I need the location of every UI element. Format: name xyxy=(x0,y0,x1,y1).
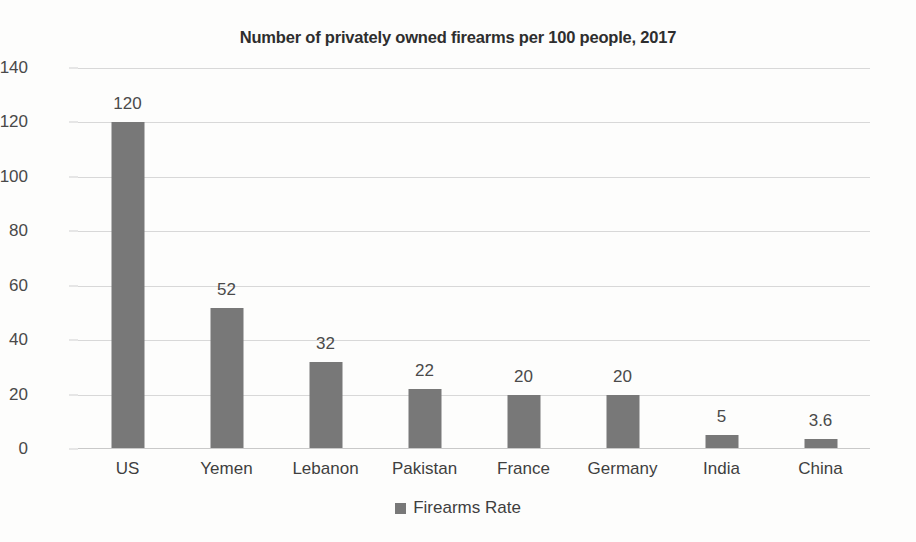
bar-value-label: 3.6 xyxy=(809,411,833,431)
bar[interactable] xyxy=(309,362,342,449)
x-axis-category-label: Lebanon xyxy=(292,459,358,479)
bar[interactable] xyxy=(606,395,639,449)
bar-slot: 22 xyxy=(375,68,474,449)
bar-slot: 52 xyxy=(177,68,276,449)
bar-slot: 120 xyxy=(78,68,177,449)
x-axis-category-label: Pakistan xyxy=(392,459,457,479)
y-axis-tick-label: 60 xyxy=(0,276,28,296)
bar-value-label: 32 xyxy=(316,334,335,354)
bar[interactable] xyxy=(408,389,441,449)
y-axis-tick-label: 80 xyxy=(0,221,28,241)
chart-title: Number of privately owned firearms per 1… xyxy=(0,28,916,47)
bar-value-label: 5 xyxy=(717,407,726,427)
plot-area: 120523222202053.6 xyxy=(78,68,870,449)
bar-slot: 20 xyxy=(474,68,573,449)
y-axis-tick-mark xyxy=(69,176,78,177)
axis-baseline xyxy=(78,448,870,449)
bar-slot: 3.6 xyxy=(771,68,870,449)
legend-swatch-icon xyxy=(395,503,406,514)
bar-value-label: 52 xyxy=(217,280,236,300)
y-axis-tick-mark xyxy=(69,231,78,232)
x-axis-category-label: France xyxy=(497,459,550,479)
bar-value-label: 120 xyxy=(113,94,141,114)
y-axis-tick-mark xyxy=(69,449,78,450)
bar-value-label: 20 xyxy=(613,367,632,387)
x-axis-category-label: Yemen xyxy=(200,459,252,479)
bar-slot: 32 xyxy=(276,68,375,449)
y-axis-tick-label: 120 xyxy=(0,112,28,132)
y-axis-tick-label: 40 xyxy=(0,330,28,350)
y-axis-tick-mark xyxy=(69,340,78,341)
y-axis-tick-mark xyxy=(69,285,78,286)
y-axis-tick-label: 0 xyxy=(0,439,28,459)
y-axis-tick-label: 140 xyxy=(0,58,28,78)
x-axis-category-label: China xyxy=(798,459,842,479)
bar-value-label: 22 xyxy=(415,361,434,381)
y-axis-tick-label: 20 xyxy=(0,385,28,405)
x-axis-category-label: Germany xyxy=(588,459,658,479)
chart-legend: Firearms Rate xyxy=(0,498,916,518)
y-axis-tick-mark xyxy=(69,122,78,123)
bar-value-label: 20 xyxy=(514,367,533,387)
y-axis-tick-mark xyxy=(69,394,78,395)
bar[interactable] xyxy=(210,308,243,450)
bar-slot: 5 xyxy=(672,68,771,449)
bar-slot: 20 xyxy=(573,68,672,449)
y-axis-tick-label: 100 xyxy=(0,167,28,187)
bar[interactable] xyxy=(705,435,738,449)
legend-label-firearms-rate: Firearms Rate xyxy=(413,498,521,518)
y-axis-tick-mark xyxy=(69,68,78,69)
bar-chart: Number of privately owned firearms per 1… xyxy=(0,0,916,542)
x-axis-category-label: India xyxy=(703,459,740,479)
x-axis-category-label: US xyxy=(116,459,140,479)
bar[interactable] xyxy=(507,395,540,449)
bar[interactable] xyxy=(111,122,144,449)
